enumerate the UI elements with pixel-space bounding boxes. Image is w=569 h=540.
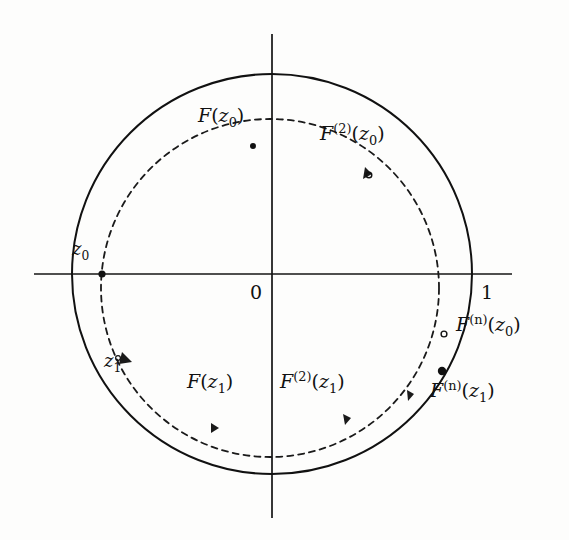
label-z1: z1 xyxy=(104,352,121,370)
axis-label-one: 1 xyxy=(481,283,493,302)
point-z0 xyxy=(98,270,105,277)
label-Fn-z1: F(n)(z1) xyxy=(430,381,495,400)
figure-canvas: z0 z1 F(z0) F(2)(z0) F(n)(z0) F(z1) F(2)… xyxy=(0,0,569,540)
label-F-z0: F(z0) xyxy=(198,106,244,125)
label-F-z1: F(z1) xyxy=(187,372,233,391)
point-fixed xyxy=(438,367,446,375)
label-z0: z0 xyxy=(72,240,89,258)
orbit-direction-arrows xyxy=(119,167,414,433)
label-F2-z0: F(2)(z0) xyxy=(320,124,385,143)
label-Fn-z0: F(n)(z0) xyxy=(456,315,521,334)
diagram-svg xyxy=(0,0,569,540)
axis-label-origin: 0 xyxy=(250,283,262,302)
point-Fnz0 xyxy=(441,331,447,337)
orbit-circle xyxy=(101,119,439,457)
label-F2-z1: F(2)(z1) xyxy=(280,372,345,391)
point-Fz0 xyxy=(250,143,256,149)
